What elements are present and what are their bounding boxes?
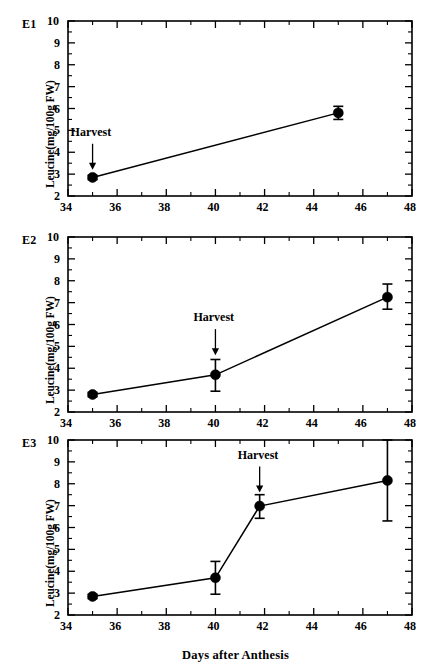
y-tick-label: 3: [54, 587, 60, 599]
x-tick-label: 42: [257, 620, 269, 632]
figure-leucine-panels: E1Leucine(mg/100g FW)Harvest234567891034…: [0, 0, 445, 666]
data-point-marker: [382, 475, 392, 485]
x-tick-label: 46: [355, 620, 367, 632]
y-tick-label: 5: [54, 543, 60, 555]
x-tick-label: 34: [60, 620, 72, 632]
x-tick-label: 48: [404, 620, 416, 632]
plot-canvas: [0, 0, 445, 666]
data-series-line: [93, 480, 388, 596]
data-point-marker: [210, 573, 220, 583]
y-tick-label: 6: [54, 522, 60, 534]
y-tick-label: 10: [47, 434, 59, 446]
harvest-annotation-label: Harvest: [238, 449, 279, 461]
panel-e3: E3Leucine(mg/100g FW)Harvest234567891034…: [0, 0, 445, 666]
y-tick-label: 4: [54, 565, 60, 577]
x-tick-label: 44: [306, 620, 318, 632]
plot-frame: [68, 440, 412, 615]
x-tick-label: 38: [158, 620, 170, 632]
x-axis-label: Days after Anthesis: [182, 648, 289, 663]
data-point-marker: [88, 591, 98, 601]
harvest-arrow-head: [256, 486, 263, 493]
x-tick-label: 36: [109, 620, 121, 632]
x-tick-label: 40: [207, 620, 219, 632]
y-tick-label: 8: [54, 478, 60, 490]
y-tick-label: 9: [54, 456, 60, 468]
data-point-marker: [255, 501, 265, 511]
y-tick-label: 7: [54, 500, 60, 512]
